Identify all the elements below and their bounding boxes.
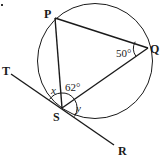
angle-label-x: x (50, 84, 56, 96)
label-s: S (53, 110, 60, 124)
stray-mark (1, 4, 3, 6)
angle-label-y: y (75, 102, 81, 114)
label-t: T (2, 64, 10, 78)
angle-arc-62 (61, 93, 75, 100)
label-r: R (118, 144, 127, 158)
segment-qs (62, 48, 148, 108)
tangent-line-tr (11, 74, 114, 145)
angle-label-psq: 62° (65, 81, 80, 93)
label-p: P (44, 7, 51, 21)
label-q: Q (150, 42, 159, 56)
angle-label-q: 50° (116, 47, 131, 59)
geometry-diagram: P Q S T R 50° 62° x y (0, 0, 165, 160)
